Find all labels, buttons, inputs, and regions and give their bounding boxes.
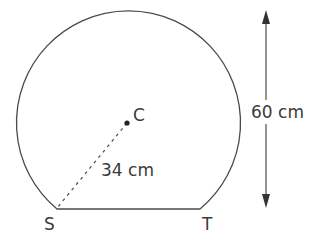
arrow-up-icon [262,10,270,24]
arrow-down-icon [262,194,270,208]
height-label: 60 cm [251,102,304,122]
point-t-label: T [201,214,213,234]
radius-label: 34 cm [101,160,154,180]
center-label: C [133,105,145,125]
circle-segment-diagram: C 34 cm 60 cm S T [0,0,317,243]
point-s-label: S [44,214,55,234]
center-point [124,120,129,125]
